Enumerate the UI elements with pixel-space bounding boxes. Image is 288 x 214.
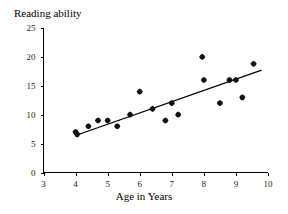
y-tick-label: 10 bbox=[18, 110, 36, 120]
axes bbox=[43, 28, 268, 173]
x-tick-label: 5 bbox=[100, 179, 116, 189]
y-tick-label: 5 bbox=[18, 139, 36, 149]
y-tick-label: 15 bbox=[18, 81, 36, 91]
x-tick-label: 3 bbox=[36, 179, 52, 189]
data-point-marker bbox=[162, 117, 168, 123]
data-point-marker bbox=[250, 61, 256, 67]
data-point-marker bbox=[199, 54, 205, 60]
data-point-marker bbox=[149, 106, 155, 112]
data-point-marker bbox=[114, 123, 120, 129]
data-point-marker bbox=[95, 117, 101, 123]
data-point-marker bbox=[85, 123, 91, 129]
x-tick-label: 10 bbox=[260, 179, 276, 189]
x-tick-label: 6 bbox=[132, 179, 148, 189]
scatter-plot-figure: Reading ability 0510152025 345678910 Age… bbox=[0, 0, 288, 214]
x-tick-label: 9 bbox=[228, 179, 244, 189]
data-point-marker bbox=[105, 117, 111, 123]
data-point-marker bbox=[201, 77, 207, 83]
x-axis-title: Age in Years bbox=[0, 190, 288, 202]
y-tick-label: 25 bbox=[18, 23, 36, 33]
data-point-marker bbox=[239, 94, 245, 100]
data-point-marker bbox=[175, 112, 181, 118]
y-tick-label: 20 bbox=[18, 52, 36, 62]
data-points bbox=[72, 54, 256, 138]
data-point-marker bbox=[137, 88, 143, 94]
x-tick-label: 8 bbox=[196, 179, 212, 189]
y-tick-label: 0 bbox=[18, 168, 36, 178]
data-point-marker bbox=[217, 100, 223, 106]
x-tick-label: 7 bbox=[164, 179, 180, 189]
x-tick-label: 4 bbox=[68, 179, 84, 189]
